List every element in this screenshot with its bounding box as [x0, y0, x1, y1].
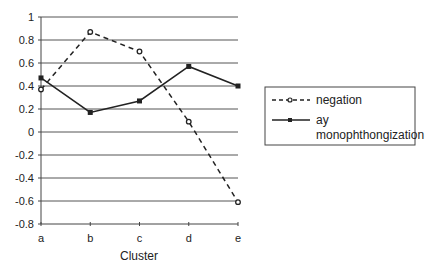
data-point-negation	[39, 87, 44, 92]
data-point-negation	[236, 200, 241, 205]
y-tick-label: -0.6	[15, 195, 34, 207]
y-tick-label: 1	[28, 11, 34, 23]
y-tick-label: 0.6	[19, 57, 34, 69]
x-tick-labels: abcde	[38, 232, 241, 244]
y-tick-label: -0.2	[15, 149, 34, 161]
series-line-ay-monophthongization	[41, 66, 238, 112]
axes	[38, 17, 238, 226]
data-point-ay-monophthongization	[236, 84, 241, 89]
y-tick-label: 0.8	[19, 34, 34, 46]
y-tick-label: -0.8	[15, 218, 34, 230]
x-tick-label: b	[87, 232, 93, 244]
y-tick-labels: 10.80.60.40.20-0.2-0.4-0.6-0.8	[15, 11, 34, 230]
legend-ay-label-line1: ay	[316, 113, 329, 127]
x-tick-label: e	[235, 232, 241, 244]
line-chart: 10.80.60.40.20-0.2-0.4-0.6-0.8 abcde Clu…	[0, 0, 428, 273]
gridlines	[41, 17, 238, 201]
data-point-ay-monophthongization	[137, 98, 142, 103]
legend: negation ay monophthongization	[265, 87, 424, 145]
x-tick-label: a	[38, 232, 45, 244]
data-point-ay-monophthongization	[39, 75, 44, 80]
data-point-negation	[88, 30, 93, 35]
legend-negation-marker	[288, 98, 292, 102]
data-point-ay-monophthongization	[88, 110, 93, 115]
y-tick-label: 0.4	[19, 80, 34, 92]
y-tick-label: 0.2	[19, 103, 34, 115]
x-axis-title: Cluster	[120, 249, 158, 263]
data-point-ay-monophthongization	[186, 64, 191, 69]
data-point-negation	[186, 119, 191, 124]
legend-negation-label: negation	[316, 93, 362, 107]
legend-ay-marker	[288, 118, 292, 122]
series-line-negation	[41, 32, 238, 202]
y-tick-label: -0.4	[15, 172, 34, 184]
x-tick-label: d	[186, 232, 192, 244]
legend-ay-label-line2: monophthongization	[316, 128, 424, 142]
y-tick-label: 0	[28, 126, 34, 138]
x-tick-label: c	[137, 232, 143, 244]
data-point-negation	[137, 49, 142, 54]
